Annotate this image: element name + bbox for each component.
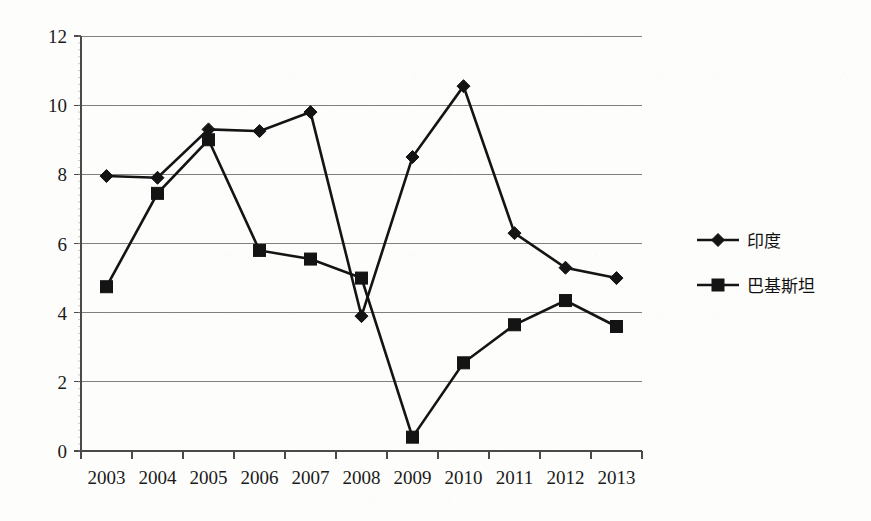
data-point-marker-square xyxy=(305,253,317,265)
x-tick-label: 2003 xyxy=(88,467,126,488)
data-point-marker-diamond xyxy=(304,106,317,119)
data-point-marker-square xyxy=(254,244,266,256)
legend-marker-square xyxy=(712,279,724,291)
y-tick-label: 12 xyxy=(48,26,67,47)
chart-legend: 印度巴基斯坦 xyxy=(697,231,815,296)
y-tick-label: 10 xyxy=(48,95,67,116)
data-point-marker-square xyxy=(407,431,419,443)
gridlines xyxy=(81,36,642,451)
data-point-marker-diamond xyxy=(100,170,113,183)
legend-entry-2[interactable]: 巴基斯坦 xyxy=(697,276,815,296)
y-tick-label: 8 xyxy=(58,164,68,185)
line-chart-plot: 0246810122003200420052006200720082009201… xyxy=(0,0,871,521)
x-tick-label: 2010 xyxy=(445,467,483,488)
legend-entry-1[interactable]: 印度 xyxy=(697,231,781,251)
data-point-marker-square xyxy=(611,321,623,333)
x-tick-label: 2009 xyxy=(394,467,432,488)
x-tick-label: 2004 xyxy=(139,467,178,488)
series-1 xyxy=(100,80,623,323)
x-tick-label: 2011 xyxy=(496,467,533,488)
data-point-marker-diamond xyxy=(253,125,266,138)
x-tick-label: 2005 xyxy=(190,467,228,488)
series-line-2 xyxy=(107,140,617,437)
data-point-marker-square xyxy=(458,357,470,369)
legend-label: 印度 xyxy=(747,231,781,251)
x-axis-tick-labels: 2003200420052006200720082009201020112012… xyxy=(88,467,636,488)
data-point-marker-square xyxy=(509,319,521,331)
x-tick-label: 2007 xyxy=(292,467,330,488)
series-2 xyxy=(101,134,623,443)
y-tick-label: 0 xyxy=(58,441,68,462)
x-axis-tick-marks xyxy=(81,451,642,459)
legend-marker-diamond xyxy=(712,234,725,247)
data-point-marker-square xyxy=(203,134,215,146)
x-tick-label: 2013 xyxy=(598,467,636,488)
y-tick-label: 2 xyxy=(58,372,68,393)
data-point-marker-square xyxy=(101,281,113,293)
y-tick-label: 6 xyxy=(58,234,68,255)
legend-label: 巴基斯坦 xyxy=(747,276,815,296)
x-tick-label: 2008 xyxy=(343,467,381,488)
x-tick-label: 2012 xyxy=(547,467,585,488)
data-point-marker-square xyxy=(560,295,572,307)
data-point-marker-diamond xyxy=(610,272,623,285)
data-point-marker-diamond xyxy=(355,310,368,323)
data-point-marker-square xyxy=(152,187,164,199)
y-axis-tick-labels: 024681012 xyxy=(48,26,81,462)
x-tick-label: 2006 xyxy=(241,467,279,488)
chart-container: 0246810122003200420052006200720082009201… xyxy=(0,0,871,521)
y-tick-label: 4 xyxy=(58,303,68,324)
data-point-marker-square xyxy=(356,272,368,284)
